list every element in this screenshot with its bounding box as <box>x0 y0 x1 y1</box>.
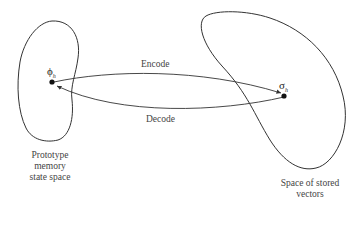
phi-subscript: h <box>53 73 56 79</box>
stored-vectors-label: Space of stored vectors <box>268 178 352 200</box>
stored-vectors-label-line-1: Space of stored <box>268 178 352 189</box>
sigma-label: σh <box>279 80 288 96</box>
prototype-label-line-2: memory <box>18 161 82 172</box>
prototype-memory-label: Prototype memory state space <box>18 150 82 183</box>
encode-arrow <box>54 73 281 93</box>
prototype-label-line-1: Prototype <box>18 150 82 161</box>
decode-label: Decode <box>146 114 175 125</box>
stored-vectors-label-line-2: vectors <box>268 189 352 200</box>
sigma-subscript: h <box>285 87 288 93</box>
encode-label: Encode <box>141 59 170 70</box>
prototype-label-line-3: state space <box>18 172 82 183</box>
phi-label: ϕh <box>47 66 56 82</box>
